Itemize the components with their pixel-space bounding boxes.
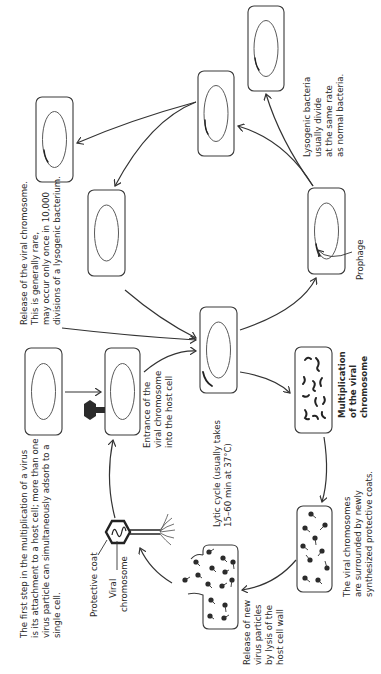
svg-text:Lysogenic bacteria: Lysogenic bacteria [302, 77, 312, 157]
svg-text:chromosome: chromosome [119, 556, 129, 612]
svg-text:is its attachment to a host ce: is its attachment to a host cell; more t… [30, 438, 40, 638]
svg-text:The viral chromosomes: The viral chromosomes [342, 496, 352, 598]
label-multiplication: Multiplication of the viral chromosome [337, 351, 369, 418]
cell-attachment [105, 348, 140, 435]
svg-text:of the viral: of the viral [348, 365, 358, 418]
svg-text:This is generally rare,: This is generally rare, [30, 232, 40, 326]
svg-text:Multiplication: Multiplication [337, 351, 347, 418]
svg-text:viral chromosome: viral chromosome [153, 371, 163, 448]
cell-prophage [308, 188, 345, 274]
svg-text:synthesized protective coats.: synthesized protective coats. [364, 471, 374, 597]
svg-text:into the host cell: into the host cell [164, 376, 174, 448]
svg-text:virus particle can simultaneou: virus particle can simultaneously adsorb… [41, 444, 51, 638]
label-attachment: The first step in the multiplication of … [19, 438, 62, 639]
cell-lysogenic-f [198, 71, 234, 156]
cell-infected-center [200, 307, 237, 393]
label-lytic-cycle: Lytic cycle (usually takes 15–60 min at … [212, 420, 233, 527]
label-coats: The viral chromosomes are surrounded by … [342, 471, 374, 598]
svg-text:by lysis of the: by lysis of the [264, 605, 274, 665]
label-release-chromosome: Release of the viral chromosome. This is… [19, 176, 62, 326]
svg-text:as normal bacteria.: as normal bacteria. [335, 74, 345, 157]
cell-lysogenic-g [248, 6, 284, 91]
cell-coat-assembly [297, 506, 332, 592]
label-viral-chromosome: Viral chromosome [108, 556, 129, 612]
svg-text:single cell.: single cell. [52, 592, 62, 638]
svg-text:Entrance of the: Entrance of the [142, 382, 152, 448]
svg-text:15–60 min at 37°C): 15–60 min at 37°C) [223, 443, 233, 527]
phage-life-cycle-diagram: The first step in the multiplication of … [0, 0, 381, 674]
svg-text:Viral: Viral [108, 579, 118, 598]
svg-text:chromosome: chromosome [359, 356, 369, 418]
cell-uninfected [25, 348, 62, 435]
label-prophage: Prophage [355, 239, 365, 280]
svg-text:Release of new: Release of new [242, 600, 252, 665]
svg-text:may occur only once in 10,000: may occur only once in 10,000 [41, 192, 51, 325]
svg-text:Release of the viral chromoso: Release of the viral chromosome. [19, 181, 29, 325]
label-lysis: Release of new virus particles by lysis … [242, 600, 285, 665]
svg-text:host cell wall: host cell wall [275, 609, 285, 665]
phage-particle-icon [106, 514, 175, 545]
cell-lysis [182, 545, 238, 629]
svg-text:Prophage: Prophage [355, 239, 365, 280]
label-lysogenic-division: Lysogenic bacteria usually divide at the… [302, 74, 345, 157]
svg-text:at the same rate: at the same rate [324, 85, 334, 157]
attached-phage-icon [84, 400, 105, 420]
label-entrance: Entrance of the viral chromosome into th… [142, 371, 174, 448]
svg-text:divisions of a lysogenic bacte: divisions of a lysogenic bacterium. [52, 176, 62, 325]
svg-text:virus particles: virus particles [253, 604, 263, 665]
svg-text:are surrounded by newly: are surrounded by newly [353, 490, 363, 597]
svg-text:Lytic cycle (usually takes: Lytic cycle (usually takes [212, 420, 222, 527]
cell-lysogenic-e [36, 97, 73, 182]
svg-text:Protective coat: Protective coat [89, 552, 99, 617]
svg-text:The first step in the multipli: The first step in the multiplication of … [19, 449, 29, 639]
svg-text:usually divide: usually divide [313, 98, 323, 157]
cell-lysogenic-d [88, 190, 125, 276]
label-protective-coat: Protective coat [89, 552, 99, 617]
cell-multiplication [295, 347, 332, 433]
